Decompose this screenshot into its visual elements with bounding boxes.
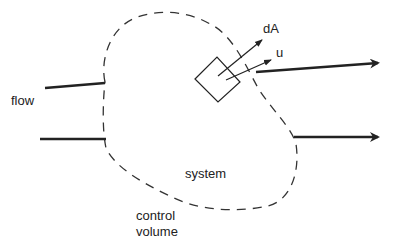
system-label: system <box>185 166 226 181</box>
dA-label: dA <box>263 21 279 36</box>
u-label: u <box>276 45 283 60</box>
outflow-arrow-top <box>256 63 378 72</box>
control-volume-diagram <box>0 0 393 249</box>
control-volume-label-line2: volume <box>136 224 178 239</box>
u-vector-arrow <box>226 60 271 80</box>
flow-label: flow <box>11 93 34 108</box>
dA-vector-arrow <box>218 40 262 76</box>
inflow-line-top <box>45 83 105 88</box>
control-volume-label-line1: control <box>136 208 175 223</box>
